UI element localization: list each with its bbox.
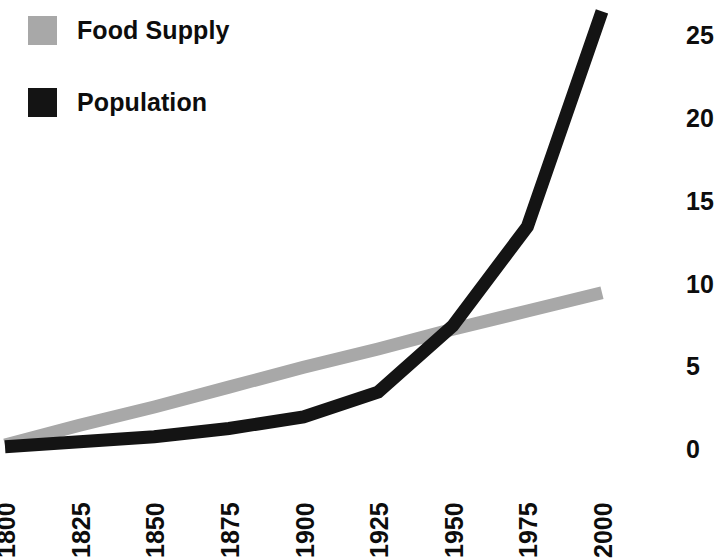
y-axis-tick-label: 25 (686, 23, 727, 48)
line-series-population (5, 11, 602, 446)
y-axis-tick-label: 15 (686, 189, 727, 214)
y-axis-tick-label: 5 (686, 354, 727, 379)
y-axis-tick-label: 20 (686, 106, 727, 131)
x-axis-tick-label: 2000 (586, 476, 620, 558)
x-axis-tick-label: 1975 (511, 476, 545, 558)
x-axis-tick-label: 1850 (138, 476, 172, 558)
y-axis: 0510152025 (686, 0, 727, 470)
plot-area (0, 0, 660, 470)
chart-container: Food Supply Population 0510152025 180018… (0, 0, 727, 558)
x-axis-tick-label: 1800 (0, 476, 23, 558)
x-axis-tick-label: 1950 (437, 476, 471, 558)
x-axis: 180018251850187519001925195019752000 (0, 476, 660, 558)
y-axis-tick-label: 0 (686, 437, 727, 462)
y-axis-tick-label: 10 (686, 272, 727, 297)
x-axis-tick-label: 1925 (362, 476, 396, 558)
x-axis-tick-label: 1825 (64, 476, 98, 558)
x-axis-tick-label: 1875 (213, 476, 247, 558)
x-axis-tick-label: 1900 (288, 476, 322, 558)
